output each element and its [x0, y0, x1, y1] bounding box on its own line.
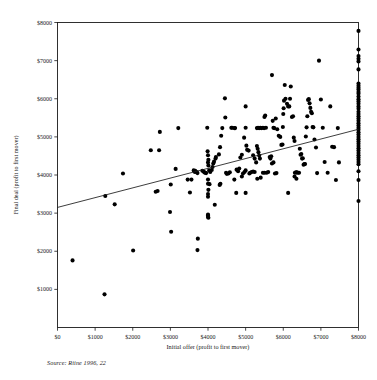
data-point	[356, 178, 360, 182]
data-point	[323, 160, 327, 164]
y-tick-label: $8000	[37, 20, 52, 26]
data-point	[356, 67, 360, 71]
data-point	[253, 157, 257, 161]
data-point	[206, 178, 210, 182]
data-point	[186, 178, 190, 182]
data-point	[328, 104, 332, 108]
data-point	[242, 136, 246, 140]
data-point	[268, 157, 272, 161]
data-point	[157, 148, 161, 152]
ticks-group	[54, 23, 358, 331]
data-point	[274, 171, 278, 175]
data-point	[256, 147, 260, 151]
data-point	[266, 170, 270, 174]
y-tick-label: $3000	[37, 210, 52, 216]
data-point	[174, 167, 178, 171]
x-tick-label: $0	[55, 334, 61, 340]
data-point	[287, 104, 291, 108]
chart-canvas: $0$1000$2000$3000$4000$5000$6000$7000$80…	[0, 0, 377, 380]
data-point	[196, 237, 200, 241]
y-tick-label: $4000	[37, 172, 52, 178]
data-point	[206, 195, 210, 199]
data-point	[282, 106, 286, 110]
data-point	[176, 126, 180, 130]
data-point	[334, 178, 338, 182]
data-point	[286, 191, 290, 195]
data-point	[305, 114, 309, 118]
data-point	[232, 178, 236, 182]
data-point	[356, 162, 360, 166]
data-point	[240, 153, 244, 157]
x-tick-label: $1000	[88, 334, 103, 340]
data-point	[356, 199, 360, 203]
data-point	[271, 160, 275, 164]
data-point	[244, 168, 248, 172]
data-point	[121, 171, 125, 175]
data-point	[263, 113, 267, 117]
data-point	[308, 106, 312, 110]
y-tick-label: $2000	[37, 248, 52, 254]
data-point	[220, 126, 224, 130]
data-point	[217, 152, 221, 156]
data-point	[289, 85, 293, 89]
data-point	[244, 126, 248, 130]
data-point	[253, 170, 257, 174]
y-tick-label: $1000	[37, 286, 52, 292]
data-point	[206, 163, 210, 167]
data-points-group	[71, 29, 361, 297]
x-tick-label: $7000	[313, 334, 328, 340]
x-tick-label: $8000	[351, 334, 366, 340]
data-point	[213, 203, 217, 207]
data-point	[337, 160, 341, 164]
data-point	[303, 162, 307, 166]
x-tick-label: $2000	[125, 334, 140, 340]
data-point	[212, 160, 216, 164]
x-tick-label: $4000	[201, 334, 216, 340]
data-point	[356, 48, 360, 52]
data-point	[356, 169, 360, 173]
data-point	[259, 176, 263, 180]
y-tick-label: $6000	[37, 96, 52, 102]
data-point	[310, 111, 314, 115]
data-point	[301, 156, 305, 160]
data-point	[281, 125, 285, 129]
data-point	[102, 292, 106, 296]
data-point	[189, 178, 193, 182]
data-point	[332, 145, 336, 149]
data-point	[270, 73, 274, 77]
data-point	[291, 114, 295, 118]
data-point	[169, 230, 173, 234]
data-point	[244, 191, 248, 195]
y-tick-label: $5000	[37, 134, 52, 140]
data-point	[292, 139, 296, 143]
data-point	[237, 166, 241, 170]
axes-group	[58, 23, 359, 328]
data-point	[206, 213, 210, 217]
data-point	[247, 149, 251, 153]
data-point	[204, 171, 208, 175]
data-point	[113, 202, 117, 206]
data-point	[319, 97, 323, 101]
data-point	[169, 182, 173, 186]
data-point	[195, 248, 199, 252]
data-point	[254, 160, 258, 164]
data-point	[244, 144, 248, 148]
tick-labels-group: $0$1000$2000$3000$4000$5000$6000$7000$80…	[37, 20, 366, 340]
data-point	[234, 191, 238, 195]
x-tick-label: $3000	[163, 334, 178, 340]
data-point	[308, 101, 312, 105]
data-point	[336, 126, 340, 130]
x-tick-label: $6000	[276, 334, 291, 340]
data-point	[228, 170, 232, 174]
data-point	[223, 96, 227, 100]
data-point	[206, 188, 210, 192]
data-point	[356, 59, 360, 63]
data-point	[292, 136, 296, 140]
data-point	[205, 126, 209, 130]
data-point	[218, 145, 222, 149]
data-point	[304, 134, 308, 138]
data-point	[315, 171, 319, 175]
y-tick-label: $7000	[37, 58, 52, 64]
data-point	[274, 117, 278, 121]
data-point	[264, 126, 268, 130]
